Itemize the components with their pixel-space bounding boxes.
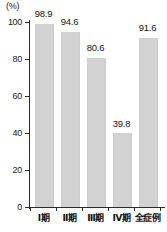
category-label-all-cases: 全症例 bbox=[128, 213, 167, 223]
y-tick-0 bbox=[25, 207, 29, 208]
x-tick-2 bbox=[82, 208, 83, 211]
x-tick-0 bbox=[30, 208, 31, 211]
y-tick-40 bbox=[25, 133, 29, 134]
y-tick-label-0: 0 bbox=[0, 203, 22, 212]
x-tick-4 bbox=[134, 208, 135, 211]
y-tick-label-40: 40 bbox=[0, 129, 22, 138]
bar-stage-1 bbox=[35, 24, 54, 207]
bar-value-stage-3: 80.6 bbox=[78, 43, 113, 53]
x-tick-3 bbox=[108, 208, 109, 211]
y-tick-label-60: 60 bbox=[0, 92, 22, 101]
y-tick-20 bbox=[25, 170, 29, 171]
y-axis-unit-label: (%) bbox=[6, 1, 19, 11]
y-tick-label-20: 20 bbox=[0, 166, 22, 175]
bar-value-stage-2: 94.6 bbox=[52, 17, 87, 27]
x-tick-1 bbox=[56, 208, 57, 211]
bar-stage-3 bbox=[87, 58, 106, 207]
bar-stage-4 bbox=[113, 133, 132, 207]
x-axis-line bbox=[29, 207, 165, 208]
y-tick-label-80: 80 bbox=[0, 55, 22, 64]
bar-all-cases bbox=[139, 38, 158, 208]
bar-stage-2 bbox=[61, 32, 80, 207]
bar-value-all-cases: 91.6 bbox=[130, 23, 165, 33]
bar-value-stage-4: 39.8 bbox=[104, 119, 139, 129]
y-tick-label-100: 100 bbox=[0, 18, 22, 27]
y-tick-100 bbox=[25, 22, 29, 23]
x-tick-5 bbox=[160, 208, 161, 211]
bar-chart-figure: (%) 100 80 60 40 20 0 98.9 94.6 80.6 39.… bbox=[0, 0, 167, 232]
y-tick-80 bbox=[25, 59, 29, 60]
y-tick-60 bbox=[25, 96, 29, 97]
